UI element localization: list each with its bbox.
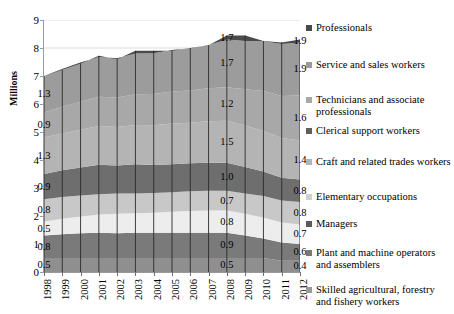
legend-label: Skilled agricultural, forestry and fishe…	[316, 284, 452, 307]
data-label: 0.5	[37, 223, 50, 234]
x-tick-mark	[44, 272, 45, 276]
x-tick-mark	[81, 272, 82, 276]
data-label: 0.9	[37, 120, 50, 131]
data-label: 1.9	[293, 36, 306, 47]
x-tick-mark	[172, 272, 173, 276]
data-label: 0.7	[293, 229, 306, 240]
legend-item[interactable]: Technicians and associate professionals	[306, 94, 452, 117]
legend-label: Service and sales workers	[316, 59, 452, 71]
stacked-area-plot	[44, 20, 300, 272]
legend-swatch-icon	[306, 250, 312, 256]
legend-item[interactable]: Plant and machine operators and assemble…	[306, 247, 452, 270]
x-tick-label: 2010	[262, 279, 273, 300]
legend-swatch-icon	[306, 128, 312, 134]
legend-label: Technicians and associate professionals	[316, 94, 452, 117]
data-label: 0.8	[293, 208, 306, 219]
data-label: 1.2	[220, 99, 233, 110]
y-tick-label: 7	[34, 71, 40, 82]
x-tick-label: 2005	[171, 279, 182, 300]
legend-item[interactable]: Skilled agricultural, forestry and fishe…	[306, 284, 452, 307]
y-axis-title: Millions	[8, 71, 19, 106]
x-tick-label: 2009	[244, 279, 255, 300]
legend-item[interactable]: Elementary occupations	[306, 191, 452, 203]
x-tick-mark	[209, 272, 210, 276]
legend-swatch-icon	[306, 97, 312, 103]
legend-item[interactable]: Clerical support workers	[306, 125, 452, 137]
legend-swatch-icon	[306, 25, 312, 31]
legend-label: Craft and related trades workers	[316, 156, 452, 168]
x-tick-label: 2003	[134, 279, 145, 300]
legend-swatch-icon	[306, 194, 312, 200]
legend-swatch-icon	[306, 62, 312, 68]
data-label: 1.3	[37, 151, 50, 162]
x-tick-label: 2004	[152, 279, 163, 300]
x-tick-mark	[263, 272, 264, 276]
data-label: 0.5	[37, 260, 50, 271]
legend-label: Managers	[316, 218, 452, 230]
x-tick-label: 1998	[43, 279, 54, 300]
legend-label: Clerical support workers	[316, 125, 452, 137]
data-label: 1.3	[37, 89, 50, 100]
x-tick-label: 2008	[226, 279, 237, 300]
legend-item[interactable]: Managers	[306, 218, 452, 230]
data-label: 0.9	[37, 181, 50, 192]
data-label: 0.8	[220, 216, 233, 227]
x-tick-label: 2011	[280, 279, 291, 300]
data-label: 1.6	[293, 113, 306, 124]
data-label: 0.7	[220, 195, 233, 206]
x-tick-mark	[99, 272, 100, 276]
x-tick-label: 2002	[116, 279, 127, 300]
data-label: 1.5	[220, 137, 233, 148]
x-tick-label: 2001	[98, 279, 109, 300]
legend-item[interactable]: Service and sales workers	[306, 59, 452, 71]
data-label: 1.4	[293, 155, 306, 166]
data-label: 0.5	[220, 260, 233, 271]
x-tick-mark	[190, 272, 191, 276]
data-label: 0.6	[293, 247, 306, 258]
legend-label: Plant and machine operators and assemble…	[316, 247, 452, 270]
x-tick-mark	[62, 272, 63, 276]
y-tick-label: 6	[34, 99, 40, 110]
data-label: 1.7	[220, 58, 233, 69]
y-tick-label: 8	[34, 43, 40, 54]
x-tick-mark	[135, 272, 136, 276]
legend-item[interactable]: Craft and related trades workers	[306, 156, 452, 168]
x-tick-label: 2007	[207, 279, 218, 300]
data-label: 0.8	[293, 186, 306, 197]
data-label: 0.8	[37, 205, 50, 216]
data-label: 0.9	[220, 240, 233, 251]
x-tick-mark	[245, 272, 246, 276]
stacked-area-svg	[44, 20, 300, 272]
data-label: 1.9	[293, 64, 306, 75]
legend-swatch-icon	[306, 287, 312, 293]
legend-swatch-icon	[306, 159, 312, 165]
data-label: 1.7	[220, 32, 233, 43]
legend-label: Professionals	[316, 22, 452, 34]
x-tick-mark	[154, 272, 155, 276]
legend-label: Elementary occupations	[316, 191, 452, 203]
plot-area: Millions 0123456789 19981999200020012002…	[44, 20, 300, 272]
x-tick-label: 2006	[189, 279, 200, 300]
data-label: 0.4	[293, 261, 306, 272]
legend-item[interactable]: Professionals	[306, 22, 452, 34]
chart-page: Millions 0123456789 19981999200020012002…	[0, 0, 454, 314]
x-tick-mark	[227, 272, 228, 276]
legend-swatch-icon	[306, 221, 312, 227]
y-tick-label: 9	[34, 15, 40, 26]
x-tick-mark	[300, 272, 301, 276]
x-tick-mark	[282, 272, 283, 276]
x-tick-label: 2000	[79, 279, 90, 300]
x-tick-label: 1999	[61, 279, 72, 300]
x-tick-mark	[117, 272, 118, 276]
data-label: 1.0	[220, 172, 233, 183]
data-label: 0.8	[37, 242, 50, 253]
